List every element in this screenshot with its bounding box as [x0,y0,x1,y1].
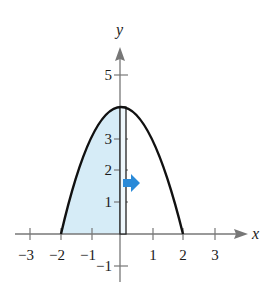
svg-text:1: 1 [149,247,157,263]
svg-text:−3: −3 [18,247,34,263]
area-diagram: −3 −2 −1 1 2 3 −1 1 2 3 5 x y [0,0,277,297]
x-axis-arrow-icon [234,229,248,239]
svg-text:2: 2 [179,247,187,263]
svg-text:3: 3 [105,131,113,147]
svg-text:3: 3 [211,247,219,263]
y-axis-label: y [114,21,124,39]
svg-text:−1: −1 [80,247,96,263]
x-tick-labels: −3 −2 −1 1 2 3 [18,247,219,263]
y-axis-arrow-icon [115,47,125,61]
svg-text:−1: −1 [96,258,112,274]
svg-text:2: 2 [105,162,113,178]
x-axis-label: x [251,225,259,242]
svg-text:5: 5 [105,67,113,83]
svg-text:−2: −2 [49,247,65,263]
representative-rectangle [120,107,126,234]
svg-text:1: 1 [105,194,113,210]
